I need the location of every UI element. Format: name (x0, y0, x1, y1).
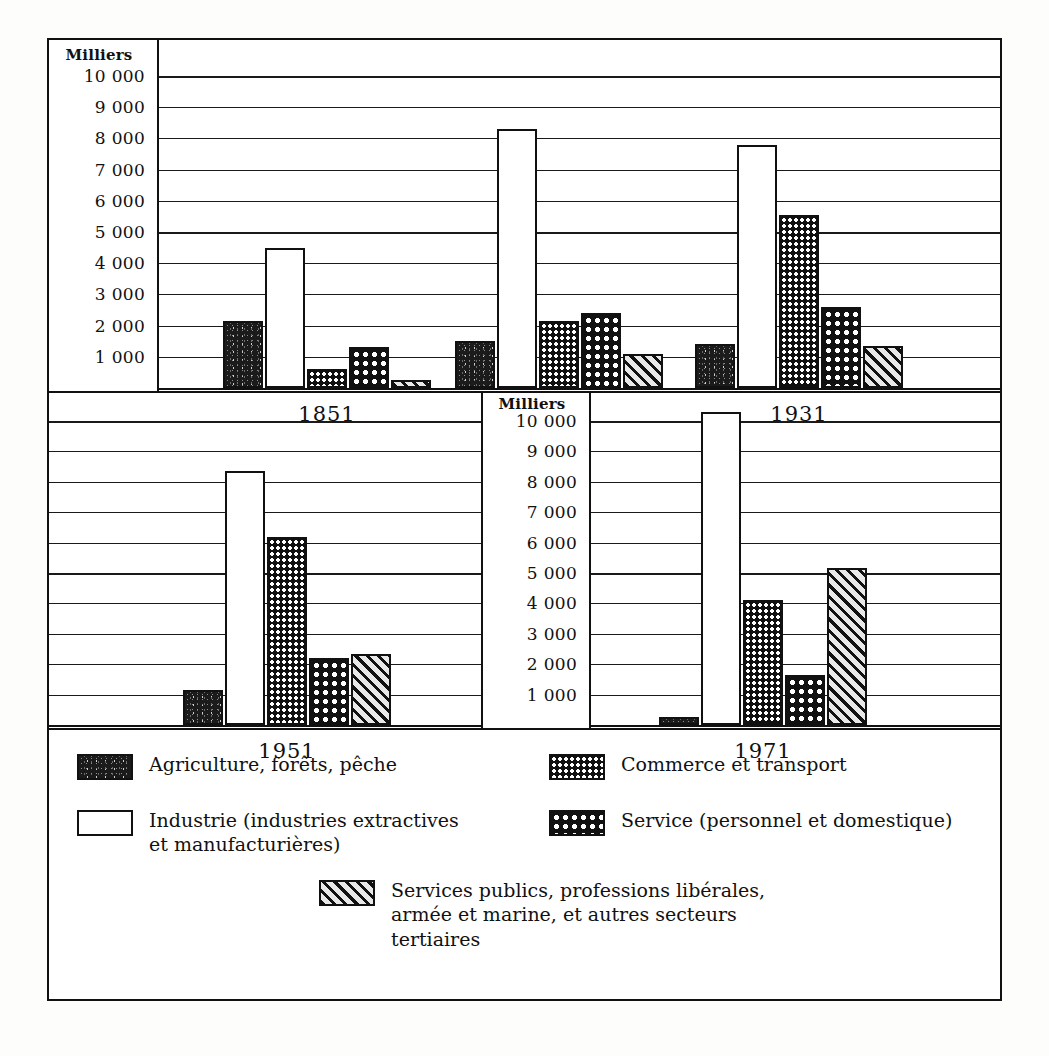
legend-label-services-publics: Services publics, professions libérales,… (391, 878, 765, 951)
y-axis-top: Milliers 10 0009 0008 0007 0006 0005 000… (49, 40, 159, 391)
legend-label-agriculture: Agriculture, forêts, pêche (149, 752, 397, 776)
gridline-10000 (49, 421, 481, 423)
y-tick-4000: 4 000 (527, 593, 577, 613)
bar-1851-indus (265, 248, 305, 388)
bar-1851-pub (391, 380, 431, 388)
y-tick-6000: 6 000 (95, 191, 145, 211)
gridline-9000 (159, 107, 1000, 108)
y-tick-9000: 9 000 (527, 441, 577, 461)
legend-item-commerce: Commerce et transport (549, 752, 847, 780)
baseline (49, 725, 481, 727)
panel-top: Milliers 10 0009 0008 0007 0006 0005 000… (49, 40, 1000, 393)
gridline-7000 (159, 170, 1000, 171)
legend-label-commerce: Commerce et transport (621, 752, 847, 776)
gridline-6000 (591, 543, 1000, 544)
y-axis-bottom: Milliers 10 0009 0008 0007 0006 0005 000… (481, 393, 591, 728)
y-tick-8000: 8 000 (527, 472, 577, 492)
legend-label-service: Service (personnel et domestique) (621, 808, 952, 832)
y-tick-7000: 7 000 (95, 160, 145, 180)
legend-swatch-industrie (77, 810, 133, 836)
gridline-4000 (49, 603, 481, 604)
y-tick-10000: 10 000 (84, 66, 145, 86)
y-tick-3000: 3 000 (95, 284, 145, 304)
legend-label-industrie: Industrie (industries extractives et man… (149, 808, 459, 857)
chart-frame: Milliers 10 0009 0008 0007 0006 0005 000… (47, 38, 1002, 1001)
plot-area-1971 (591, 393, 1000, 728)
gridline-3000 (591, 634, 1000, 635)
bar-1931-agri (695, 344, 735, 388)
gridline-10000 (591, 421, 1000, 423)
gridline-8000 (49, 482, 481, 483)
legend-item-agriculture: Agriculture, forêts, pêche (77, 752, 397, 780)
y-tick-4000: 4 000 (95, 253, 145, 273)
gridline-9000 (591, 451, 1000, 452)
gridline-1000 (49, 695, 481, 696)
bar-1901-serv (581, 313, 621, 388)
bar-1851-comm (307, 369, 347, 388)
y-tick-2000: 2 000 (527, 654, 577, 674)
gridline-8000 (159, 138, 1000, 139)
legend-swatch-services-publics (319, 880, 375, 906)
y-tick-1000: 1 000 (95, 347, 145, 367)
plot-area-top (159, 40, 1000, 391)
bar-1951-indus (225, 471, 265, 725)
y-tick-1000: 1 000 (527, 685, 577, 705)
y-tick-6000: 6 000 (527, 533, 577, 553)
bar-1901-agri (455, 341, 495, 388)
bar-1971-indus (701, 412, 741, 725)
bar-1931-comm (779, 215, 819, 388)
bar-1951-agri (183, 690, 223, 725)
chart-page: Milliers 10 0009 0008 0007 0006 0005 000… (0, 0, 1049, 1056)
bar-1931-pub (863, 346, 903, 388)
panel-bottom: Milliers 10 0009 0008 0007 0006 0005 000… (49, 393, 1000, 730)
gridline-4000 (591, 603, 1000, 604)
gridline-7000 (49, 512, 481, 513)
bar-1951-serv (309, 658, 349, 725)
bar-1901-pub (623, 354, 663, 388)
gridline-2000 (49, 664, 481, 665)
legend-swatch-service (549, 810, 605, 836)
y-tick-10000: 10 000 (516, 411, 577, 431)
bar-1931-indus (737, 145, 777, 388)
bar-1951-comm (267, 537, 307, 725)
bar-1971-agri (659, 717, 699, 725)
gridline-5000 (591, 573, 1000, 575)
legend-item-service: Service (personnel et domestique) (549, 808, 952, 836)
gridline-10000 (159, 76, 1000, 78)
plot-area-1951 (49, 393, 481, 728)
bar-1901-indus (497, 129, 537, 388)
bar-1971-comm (743, 600, 783, 725)
legend-swatch-agriculture (77, 754, 133, 780)
baseline (591, 725, 1000, 727)
y-tick-5000: 5 000 (95, 222, 145, 242)
gridline-7000 (591, 512, 1000, 513)
bar-1931-serv (821, 307, 861, 388)
chart-legend: Agriculture, forêts, pêcheIndustrie (ind… (49, 730, 1000, 999)
gridline-6000 (49, 543, 481, 544)
gridline-6000 (159, 201, 1000, 202)
y-tick-3000: 3 000 (527, 624, 577, 644)
bar-1851-serv (349, 347, 389, 388)
gridline-2000 (591, 664, 1000, 665)
baseline (159, 388, 1000, 390)
y-tick-2000: 2 000 (95, 316, 145, 336)
gridline-5000 (49, 573, 481, 575)
bar-1851-agri (223, 321, 263, 388)
bar-1951-pub (351, 654, 391, 725)
legend-swatch-commerce (549, 754, 605, 780)
y-tick-7000: 7 000 (527, 502, 577, 522)
gridline-9000 (49, 451, 481, 452)
y-tick-5000: 5 000 (527, 563, 577, 583)
bar-1901-comm (539, 321, 579, 388)
gridline-3000 (49, 634, 481, 635)
y-tick-9000: 9 000 (95, 97, 145, 117)
legend-item-industrie: Industrie (industries extractives et man… (77, 808, 459, 857)
bar-1971-pub (827, 568, 867, 725)
axis-title-top: Milliers (49, 46, 149, 64)
legend-item-services-publics: Services publics, professions libérales,… (319, 878, 765, 951)
gridline-5000 (159, 232, 1000, 234)
gridline-8000 (591, 482, 1000, 483)
y-tick-8000: 8 000 (95, 128, 145, 148)
bar-1971-serv (785, 675, 825, 725)
